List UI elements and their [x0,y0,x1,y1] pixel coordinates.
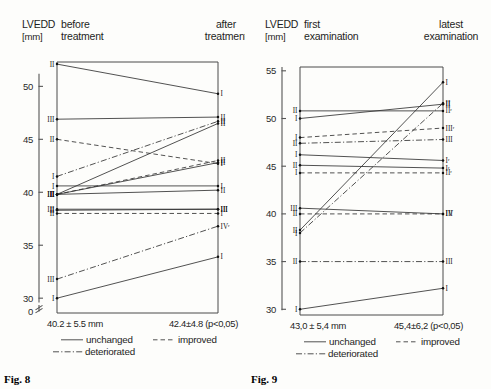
legend-label-improved: improved [178,334,217,345]
series-line[interactable]: IIII [50,120,226,199]
series-right-label: III [446,136,454,144]
axis-unit-fig9: [mm] [265,31,286,42]
series-left-label: II [293,210,298,218]
series-group-fig8: IIIIIIIIIIIIIIIIIIIIIIIIIIIIIIIIIIIIIIII… [47,61,230,303]
figure-caption-fig9: Fig. 9 [251,373,278,385]
series-right-label: IV [446,210,454,218]
axis-title-fig8: LVEDD [22,18,56,30]
chart-svg-fig8: LVEDD[mm]beforetreatmentaftertreatment50… [0,0,245,389]
right-stat-fig8: 42.4±4.8 (p<0,05) [169,318,238,329]
right-stat-fig9: 45,4±6,2 (p<0,05) [394,320,463,331]
series-left-label: I [295,169,298,177]
left-stat-fig9: 43,0 ± 5,4 mm [290,320,346,331]
series-line[interactable]: IIIIII [290,205,453,219]
legend-fig8: unchangedimproveddeteriorated [53,334,217,357]
y-axis-fig8: 50454035300 [23,74,43,317]
series-left-label: I [52,295,55,303]
series-line[interactable]: III [50,210,224,218]
series-line[interactable]: IIIIVʳ [47,223,230,284]
legend-label-unchanged: unchanged [329,336,376,347]
series-left-label: II [50,136,55,144]
series-line[interactable]: IIIII [47,159,226,199]
series-right-label: II [221,120,226,128]
series-left-label: II [50,191,55,199]
series-right-label: I [221,90,224,98]
legend-label-deteriorated: deteriorated [328,348,378,359]
series-right-label: IVʳ [221,223,231,231]
y-tick-label: 45 [23,134,33,145]
plot-frame-fig8 [57,62,218,313]
series-line[interactable]: IIIV [293,210,454,218]
right-header-line1-fig8: after [216,18,237,30]
axis-unit-fig8: [mm] [22,31,43,42]
legend-fig9: unchangedimproveddeteriorated [296,336,460,359]
left-header-line1-fig8: before [61,18,90,30]
y-axis-fig9: 555045403530 [266,65,286,314]
figure-panel-fig8: LVEDD[mm]beforetreatmentaftertreatment50… [0,0,245,389]
y-tick-label: 35 [23,240,33,251]
right-header-line2-fig8: treatment [205,30,245,42]
series-left-label: II [293,140,298,148]
y-tick-label: 30 [266,304,276,315]
right-header-line2-fig9: examination [424,30,479,42]
series-line[interactable]: IIʳ [295,151,450,165]
series-left-label: I [295,306,298,314]
chart-svg-fig9: LVEDD[mm]firstexaminationlatestexaminati… [245,0,490,389]
series-line[interactable]: III [295,100,451,238]
left-header-line2-fig8: treatment [61,30,104,42]
series-left-label: I [52,183,55,191]
figure-pair-container: LVEDD[mm]beforetreatmentaftertreatment50… [0,0,491,389]
series-line[interactable]: IIII [50,187,226,199]
y-tick-label: 55 [266,65,276,76]
left-header-line2-fig9: examination [304,30,359,42]
y-tick-label: 45 [266,161,276,172]
series-right-label: II [446,100,451,108]
y-tick-label: 40 [23,187,33,198]
series-line[interactable]: II [52,183,223,191]
series-line[interactable]: III [52,118,226,181]
series-right-label: III [446,258,454,266]
y-tick-label: 50 [23,81,33,92]
left-header-line1-fig9: first [304,18,320,30]
series-left-label: I [295,151,298,159]
left-stat-fig8: 40.2 ± 5.5 mm [47,318,103,329]
series-left-label: II [293,258,298,266]
series-right-label: I [221,253,224,261]
series-line[interactable]: IIIʳ [295,169,452,177]
series-line[interactable]: IIIII [293,136,454,148]
series-line[interactable]: IIIʳ [293,162,450,173]
series-line[interactable]: III [50,61,224,99]
series-left-label: I [52,173,55,181]
y-tick-label: 30 [23,293,33,304]
series-line[interactable]: IIIII [47,114,226,124]
y-tick-label: 35 [266,256,276,267]
y-tick-label: 40 [266,208,276,219]
figure-caption-fig8: Fig. 8 [4,373,31,385]
series-left-label: I [295,230,298,238]
legend-label-unchanged: unchanged [86,334,133,345]
figure-panel-fig9: LVEDD[mm]firstexaminationlatestexaminati… [245,0,490,389]
y-tick-label: 50 [266,113,276,124]
series-right-label: IIʳ [446,169,453,177]
series-right-label: II [221,157,226,165]
legend-label-deteriorated: deteriorated [85,346,135,357]
series-left-label: II [50,210,55,218]
axis-title-fig9: LVEDD [265,18,299,30]
series-line[interactable]: III [295,101,451,123]
series-left-label: I [295,115,298,123]
series-left-label: II [50,61,55,69]
series-line[interactable]: IIIII [293,258,454,266]
series-right-label: I [446,79,449,87]
series-left-label: III [47,276,55,284]
series-line[interactable]: II [295,285,448,314]
series-left-label: III [47,116,55,124]
series-line[interactable]: III [50,136,224,168]
series-right-label: I [446,285,449,293]
y-zero-label: 0 [28,306,33,317]
series-right-label: IIIʳ [446,125,455,133]
right-header-line1-fig9: latest [439,18,463,30]
series-line[interactable]: II [52,253,223,302]
series-group-fig9: IIIIʳIIIIIIIʳIIIIIIIʳIIIʳIIIʳIIIIIIIIIVI… [290,79,454,314]
legend-label-improved: improved [421,336,460,347]
series-right-label: II [221,187,226,195]
